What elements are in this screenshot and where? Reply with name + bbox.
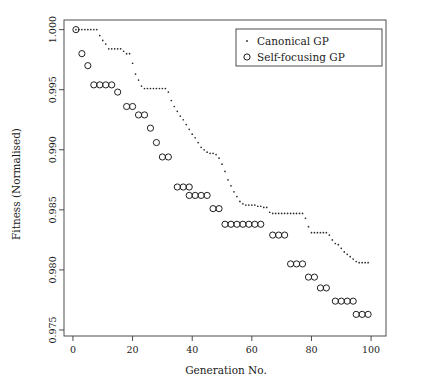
data-point-dot	[81, 29, 83, 31]
data-point-dot	[275, 213, 277, 215]
data-point-dot	[126, 53, 128, 55]
data-point-dot	[182, 119, 184, 121]
scatter-plot: 020406080100 0.9750.9800.9850.9900.9951.…	[0, 0, 421, 391]
data-point-dot	[96, 29, 98, 31]
data-point-dot	[311, 232, 313, 234]
data-point-dot	[302, 213, 304, 215]
data-point-dot	[159, 88, 161, 90]
data-point-dot	[99, 35, 101, 37]
data-point-dot	[323, 232, 325, 234]
data-point-dot	[165, 88, 167, 90]
data-point-dot	[263, 207, 265, 209]
x-tick-label: 20	[127, 344, 139, 355]
data-point-dot	[153, 88, 155, 90]
data-point-dot	[75, 29, 77, 31]
data-point-dot	[317, 232, 319, 234]
data-point-dot	[269, 211, 271, 213]
data-point-dot	[284, 213, 286, 215]
y-tick-label: 1.000	[48, 16, 59, 43]
x-tick-label: 80	[305, 344, 317, 355]
data-point-dot	[105, 43, 107, 45]
data-point-dot	[337, 244, 339, 246]
data-point-dot	[248, 204, 250, 206]
data-point-dot	[236, 196, 238, 198]
data-point-dot	[176, 110, 178, 112]
y-axis-title: Fitness (Normalised)	[10, 128, 22, 240]
data-point-dot	[245, 204, 247, 206]
data-point-dot	[257, 205, 259, 207]
data-point-dot	[173, 106, 175, 108]
data-point-dot	[203, 149, 205, 151]
data-point-dot	[305, 217, 307, 219]
data-point-dot	[334, 243, 336, 245]
data-point-dot	[272, 213, 274, 215]
data-point-dot	[93, 29, 95, 31]
data-point-dot	[218, 157, 220, 159]
x-tick-label: 100	[362, 344, 380, 355]
data-point-dot	[179, 115, 181, 117]
data-point-dot	[331, 239, 333, 241]
data-point-dot	[320, 232, 322, 234]
data-point-dot	[191, 133, 193, 135]
x-tick-label: 0	[70, 344, 76, 355]
data-point-dot	[242, 203, 244, 205]
data-point-dot	[156, 88, 158, 90]
data-point-dot	[188, 128, 190, 130]
legend-label-canonical: Canonical GP	[257, 35, 329, 47]
data-point-dot	[329, 234, 331, 236]
data-point-dot	[266, 207, 268, 209]
data-point-dot	[212, 153, 214, 155]
data-point-dot	[194, 137, 196, 139]
data-point-dot	[251, 204, 253, 206]
y-tick-label: 0.980	[48, 256, 59, 283]
data-point-dot	[120, 48, 122, 50]
data-point-dot	[197, 142, 199, 144]
data-point-dot	[281, 213, 283, 215]
data-point-dot	[170, 100, 172, 102]
x-tick-label: 40	[186, 344, 198, 355]
data-point-dot	[221, 163, 223, 165]
data-point-dot	[290, 213, 292, 215]
data-point-dot	[144, 88, 146, 90]
data-point-dot	[349, 256, 351, 258]
data-point-dot	[254, 204, 256, 206]
data-point-dot	[224, 171, 226, 173]
data-point-dot	[352, 258, 354, 260]
data-point-dot	[87, 29, 89, 31]
y-tick-label: 0.975	[48, 316, 59, 343]
data-point-dot	[200, 147, 202, 149]
data-point-dot	[111, 48, 113, 50]
data-point-dot	[206, 151, 208, 153]
y-tick-label: 0.985	[48, 196, 59, 223]
data-point-dot	[367, 262, 369, 264]
x-tick-label: 60	[246, 344, 258, 355]
data-point-dot	[260, 205, 262, 207]
data-point-dot	[90, 29, 92, 31]
data-point-dot	[215, 154, 217, 156]
data-point-dot	[141, 85, 143, 87]
data-point-dot	[147, 88, 149, 90]
y-tick-label: 0.995	[48, 76, 59, 103]
data-point-dot	[278, 213, 280, 215]
data-point-dot	[326, 232, 328, 234]
data-point-dot	[308, 226, 310, 228]
data-point-dot	[364, 262, 366, 264]
data-point-dot	[239, 201, 241, 203]
data-point-dot	[135, 73, 137, 75]
data-point-dot	[296, 213, 298, 215]
data-point-dot	[162, 88, 164, 90]
data-point-dot	[132, 62, 134, 64]
data-point-dot	[138, 79, 140, 81]
data-point-dot	[114, 48, 116, 50]
data-point-dot	[102, 40, 104, 42]
legend-marker-dot	[246, 40, 248, 42]
legend-label-self-focusing: Self-focusing GP	[257, 51, 345, 63]
data-point-dot	[209, 153, 211, 155]
data-point-dot	[346, 253, 348, 255]
x-axis-title: Generation No.	[185, 364, 267, 376]
data-point-dot	[168, 91, 170, 93]
data-point-dot	[355, 261, 357, 263]
chart-figure: 020406080100 0.9750.9800.9850.9900.9951.…	[0, 0, 421, 391]
data-point-dot	[108, 48, 110, 50]
data-point-dot	[343, 251, 345, 253]
